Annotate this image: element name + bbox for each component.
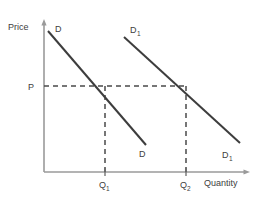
q1-axis-tick-label-subscript: 1 bbox=[106, 185, 110, 192]
curve-label-d1-bottom-subscript: 1 bbox=[229, 155, 233, 162]
curve-label-d1-top: D bbox=[130, 25, 137, 35]
demand-curve-d1 bbox=[124, 37, 240, 143]
demand-curve-d bbox=[48, 31, 146, 145]
curve-label-d1-top-subscript: 1 bbox=[137, 30, 141, 37]
chart-canvas: Price Quantity D D D 1 D 1 P Q 1 Q 2 bbox=[0, 0, 258, 200]
x-axis-arrow-icon bbox=[244, 169, 251, 174]
demand-shift-chart: Price Quantity D D D 1 D 1 P Q 1 Q 2 bbox=[0, 0, 258, 200]
curve-label-d-top: D bbox=[55, 24, 62, 34]
curve-label-d1-bottom: D bbox=[222, 150, 229, 160]
q2-axis-tick-label: Q bbox=[180, 180, 187, 190]
q1-axis-tick-label: Q bbox=[99, 180, 106, 190]
y-axis-title: Price bbox=[8, 22, 29, 32]
curve-label-d-bottom: D bbox=[139, 149, 146, 159]
q2-axis-tick-label-subscript: 2 bbox=[187, 185, 191, 192]
y-axis-arrow-icon bbox=[41, 19, 46, 26]
price-axis-tick-label: P bbox=[28, 82, 34, 92]
x-axis-title: Quantity bbox=[204, 178, 238, 188]
